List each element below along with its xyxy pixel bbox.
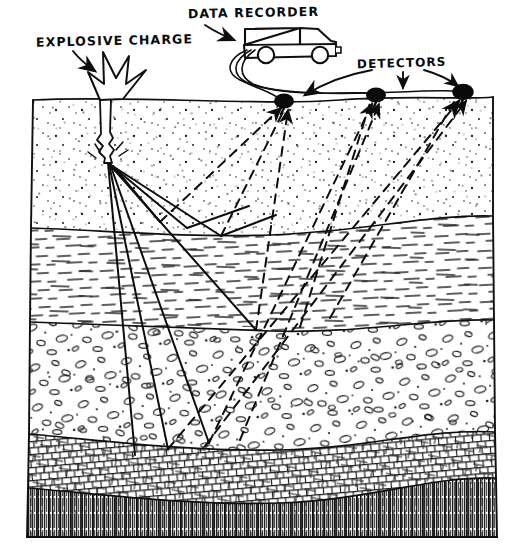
strata-group (27, 95, 497, 540)
explosion-burst (88, 52, 146, 100)
truck-bumper (336, 47, 341, 53)
truck-wheel-rear (258, 47, 274, 63)
soil-sand-layer (27, 95, 497, 240)
data-recorder-truck[interactable] (244, 28, 341, 63)
data-recorder-leader (205, 25, 234, 40)
truck-wheel-front (312, 47, 328, 63)
truck-beltline (245, 44, 336, 45)
seismic-survey-figure: EXPLOSIVE CHARGE DATA RECORDER DETECTORS (0, 0, 521, 550)
detectors-leader-left (305, 70, 372, 95)
detectors-leader-right (424, 70, 458, 86)
explosive-charge-leader (73, 51, 95, 71)
detectors-label: DETECTORS (357, 55, 447, 71)
data-recorder-label: DATA RECORDER (188, 4, 319, 21)
figure-canvas (0, 0, 521, 550)
